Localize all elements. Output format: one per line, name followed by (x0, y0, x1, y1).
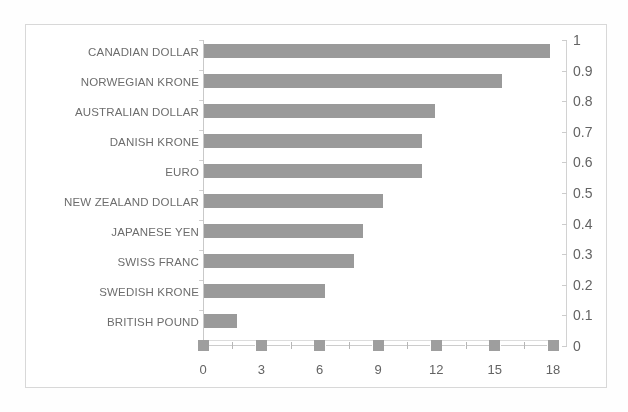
category-tick (199, 130, 203, 131)
bar (204, 224, 363, 238)
marker-whisker-left (407, 345, 430, 346)
category-tick (199, 70, 203, 71)
bar-chart-figure: CANADIAN DOLLAR NORWEGIAN KRONE AUSTRALI… (0, 0, 628, 412)
marker-whisker-left (232, 345, 255, 346)
category-label: SWISS FRANC (27, 256, 199, 268)
secondary-axis-tick (562, 101, 567, 102)
marker-whisker-right (326, 345, 349, 346)
secondary-axis-tick-label: 0 (573, 339, 581, 353)
category-tick (199, 220, 203, 221)
category-axis: CANADIAN DOLLAR NORWEGIAN KRONE AUSTRALI… (27, 40, 199, 340)
marker-whisker-cap (291, 342, 292, 349)
marker-whisker-right (501, 345, 524, 346)
secondary-axis-tick-label: 0.5 (573, 186, 592, 200)
secondary-axis-tick-label: 0.1 (573, 308, 592, 322)
secondary-axis-tick-label: 0.2 (573, 278, 592, 292)
category-label: AUSTRALIAN DOLLAR (27, 106, 199, 118)
category-label: DANISH KRONE (27, 136, 199, 148)
bar (204, 104, 435, 118)
secondary-axis-tick-label: 0.7 (573, 125, 592, 139)
category-tick (199, 190, 203, 191)
value-axis-tick-label: 3 (241, 362, 281, 377)
marker-whisker-cap (524, 342, 525, 349)
secondary-axis-tick-label: 0.4 (573, 217, 592, 231)
secondary-axis-tick (562, 254, 567, 255)
marker-whisker-right (442, 345, 465, 346)
secondary-axis-tick-label: 0.9 (573, 64, 592, 78)
marker-whisker-right (209, 345, 232, 346)
marker-whisker-cap (349, 342, 350, 349)
bar (204, 134, 422, 148)
secondary-axis-tick (562, 346, 567, 347)
marker-whisker-left (291, 345, 314, 346)
category-label: EURO (27, 166, 199, 178)
secondary-axis-tick (562, 40, 567, 41)
marker-point (314, 340, 325, 351)
secondary-axis-tick (562, 71, 567, 72)
secondary-axis-tick (562, 132, 567, 133)
secondary-axis-tick (562, 224, 567, 225)
value-axis: 0369121518 (203, 340, 575, 384)
secondary-axis-tick (562, 315, 567, 316)
bar (204, 314, 237, 328)
secondary-axis-tick (562, 285, 567, 286)
category-label: SWEDISH KRONE (27, 286, 199, 298)
category-label: JAPANESE YEN (27, 226, 199, 238)
category-tick (199, 160, 203, 161)
value-axis-tick-label: 18 (533, 362, 573, 377)
value-axis-tick-label: 9 (358, 362, 398, 377)
secondary-axis-tick (562, 193, 567, 194)
secondary-axis: 10.90.80.70.60.50.40.30.20.10 (566, 34, 608, 352)
secondary-axis-tick-label: 0.6 (573, 155, 592, 169)
value-axis-tick-label: 12 (416, 362, 456, 377)
marker-whisker-right (384, 345, 407, 346)
bar (204, 194, 383, 208)
category-tick (199, 280, 203, 281)
bar (204, 164, 422, 178)
value-axis-tick-label: 0 (183, 362, 223, 377)
marker-point (198, 340, 209, 351)
category-label: BRITISH POUND (27, 316, 199, 328)
category-tick (199, 310, 203, 311)
bar (204, 254, 354, 268)
category-label: NEW ZEALAND DOLLAR (27, 196, 199, 208)
category-label: CANADIAN DOLLAR (27, 46, 199, 58)
value-axis-tick-label: 6 (300, 362, 340, 377)
marker-whisker-right (267, 345, 290, 346)
marker-whisker-cap (466, 342, 467, 349)
value-axis-tick-label: 15 (475, 362, 515, 377)
marker-whisker-cap (407, 342, 408, 349)
marker-point (373, 340, 384, 351)
secondary-axis-tick-label: 0.3 (573, 247, 592, 261)
category-tick (199, 100, 203, 101)
marker-point (548, 340, 559, 351)
category-tick (199, 250, 203, 251)
plot-area (203, 40, 568, 340)
marker-whisker-left (524, 345, 547, 346)
category-label: NORWEGIAN KRONE (27, 76, 199, 88)
marker-point (256, 340, 267, 351)
secondary-axis-tick (562, 162, 567, 163)
bar (204, 284, 325, 298)
marker-whisker-left (349, 345, 372, 346)
secondary-axis-tick-label: 0.8 (573, 94, 592, 108)
secondary-axis-tick-label: 1 (573, 33, 581, 47)
bar (204, 44, 550, 58)
bar (204, 74, 502, 88)
marker-point (489, 340, 500, 351)
category-tick (199, 40, 203, 41)
marker-whisker-cap (232, 342, 233, 349)
marker-point (431, 340, 442, 351)
marker-whisker-left (466, 345, 489, 346)
